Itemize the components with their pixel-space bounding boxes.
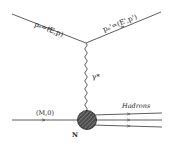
nucleon-momentum-label: (M,0) — [36, 109, 54, 117]
nucleon-line — [12, 119, 78, 121]
nucleon-label: N — [72, 131, 78, 139]
hadrons-label: Hadrons — [121, 102, 151, 110]
hadron-lines — [92, 113, 162, 127]
virtual-photon-line — [85, 43, 88, 111]
virtual-photon-label: γ* — [92, 73, 100, 81]
feynman-diagram: pₑ=(E,p) pₑ'=(E',p') γ* (M,0) Hadrons N — [0, 0, 171, 144]
nucleon-blob — [78, 111, 97, 130]
incoming-electron-label: pₑ=(E,p) — [33, 20, 64, 38]
